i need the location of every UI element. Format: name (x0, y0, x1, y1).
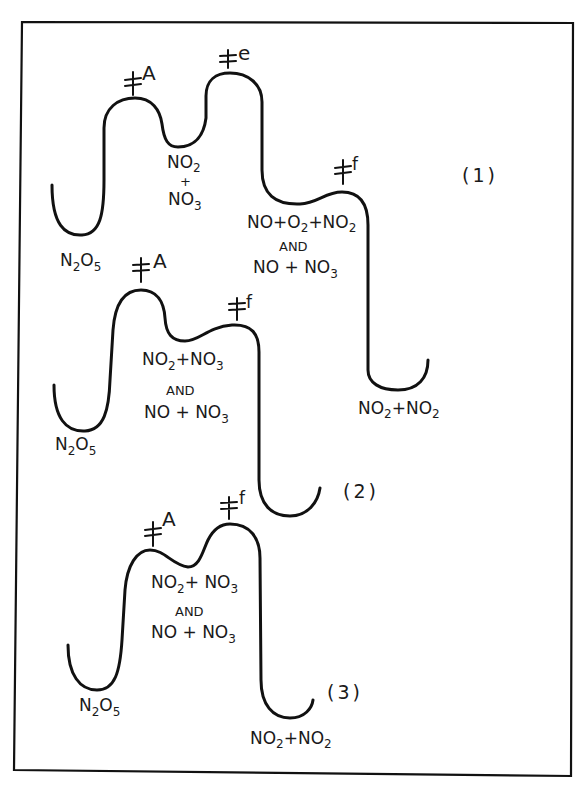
transition-state-marker-1A: A (125, 61, 156, 95)
transition-state-marker-2A: A (133, 249, 167, 282)
species-intermediate-1b-line3: NO + NO3 (253, 257, 338, 281)
species-intermediate-1a-plus: + (180, 174, 191, 189)
ts-label-1f: f (352, 154, 359, 174)
species-intermediate-2-and: AND (166, 383, 195, 398)
energy-diagram-figure: A e f N2O5 NO2 + NO3 NO+O2+NO2 AND NO + … (0, 0, 586, 792)
figure-frame (14, 22, 573, 776)
ts-label-2f: f (246, 292, 253, 312)
species-intermediate-1a-line3: NO3 (168, 189, 202, 213)
species-reactant-1: N2O5 (60, 250, 101, 274)
species-reactant-3: N2O5 (79, 695, 120, 719)
panel-3: A f N2O5 NO2+ NO3 AND NO + NO3 NO2+NO2 (… (68, 488, 363, 751)
ts-label-2A: A (153, 249, 167, 273)
ts-label-1A: A (142, 61, 156, 85)
species-intermediate-2-line1: NO2+NO3 (142, 349, 224, 373)
panel-tag-2: (2) (343, 480, 379, 502)
species-product-1: NO2+NO2 (358, 398, 440, 421)
species-intermediate-1a-line1: NO2 (167, 152, 201, 175)
panel-tag-1: (1) (462, 164, 498, 186)
panel-tag-3: (3) (327, 681, 363, 703)
energy-curve-1 (52, 73, 428, 390)
transition-state-marker-1e: e (220, 41, 250, 68)
species-reactant-2: N2O5 (55, 434, 96, 458)
species-intermediate-1b-line1: NO+O2+NO2 (247, 212, 356, 235)
transition-state-marker-3f: f (221, 488, 246, 519)
species-intermediate-1b-and: AND (279, 239, 308, 254)
panel-2: A f N2O5 NO2+NO3 AND NO + NO3 (2) (54, 249, 379, 516)
species-intermediate-3-line1: NO2+ NO3 (151, 572, 238, 596)
species-intermediate-3-line3: NO + NO3 (151, 622, 236, 646)
ts-label-3f: f (239, 488, 246, 508)
transition-state-marker-1f: f (335, 154, 359, 184)
species-intermediate-2-line3: NO + NO3 (144, 402, 229, 426)
species-product-3: NO2+NO2 (250, 728, 332, 751)
energy-curve-3 (68, 524, 313, 718)
species-intermediate-3-and: AND (175, 604, 204, 619)
ts-label-3A: A (162, 507, 176, 531)
ts-label-1e: e (238, 41, 250, 65)
panel-1: A e f N2O5 NO2 + NO3 NO+O2+NO2 AND NO + … (52, 41, 498, 421)
transition-state-marker-2f: f (229, 292, 253, 320)
transition-state-marker-3A: A (145, 507, 176, 546)
